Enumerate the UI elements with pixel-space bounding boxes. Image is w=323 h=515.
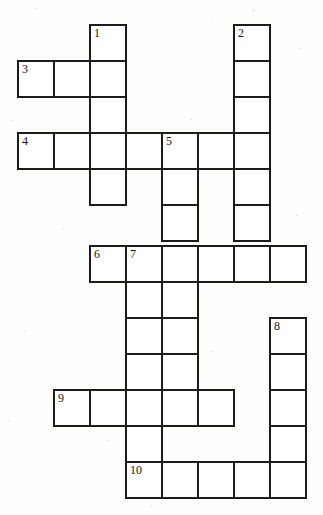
crossword-cell-6[interactable]: 6 [89,245,127,283]
crossword-cell-3[interactable]: 3 [17,60,55,98]
crossword-cell[interactable] [89,168,127,206]
crossword-cell[interactable] [269,245,307,283]
cell-number-1: 1 [94,26,100,40]
crossword-cell-5[interactable]: 5 [161,132,199,170]
cell-number-2: 2 [238,26,244,40]
cell-number-3: 3 [22,62,28,76]
crossword-cell[interactable] [233,245,271,283]
crossword-cell[interactable] [161,281,199,319]
cell-number-6: 6 [94,247,100,261]
crossword-cell[interactable] [161,168,199,206]
crossword-cell[interactable] [89,389,127,427]
crossword-cell[interactable] [53,132,91,170]
crossword-cell[interactable] [125,281,163,319]
crossword-cell-4[interactable]: 4 [17,132,55,170]
crossword-cell-1[interactable]: 1 [89,24,127,62]
crossword-cell[interactable] [161,389,199,427]
crossword-cell[interactable] [161,245,199,283]
crossword-cell[interactable] [269,461,307,499]
crossword-cell[interactable] [125,353,163,391]
crossword-cell[interactable] [161,317,199,355]
crossword-cell[interactable] [125,132,163,170]
crossword-cell-10[interactable]: 10 [125,461,163,499]
crossword-cell[interactable] [197,132,235,170]
crossword-cell[interactable] [53,60,91,98]
crossword-cell[interactable] [89,96,127,134]
crossword-puzzle: 12345678910 [0,0,323,515]
crossword-cell[interactable] [89,60,127,98]
crossword-cell[interactable] [161,204,199,242]
crossword-cell[interactable] [233,461,271,499]
cell-number-4: 4 [22,134,28,148]
crossword-grid: 12345678910 [0,0,323,515]
crossword-cell[interactable] [125,425,163,463]
crossword-cell[interactable] [269,389,307,427]
crossword-cell-9[interactable]: 9 [53,389,91,427]
crossword-cell-2[interactable]: 2 [233,24,271,62]
crossword-cell[interactable] [197,389,235,427]
crossword-cell[interactable] [233,168,271,206]
crossword-cell[interactable] [125,317,163,355]
crossword-cell[interactable] [89,132,127,170]
crossword-cell[interactable] [233,60,271,98]
cell-number-5: 5 [166,134,172,148]
crossword-cell[interactable] [269,353,307,391]
cell-number-10: 10 [130,463,142,477]
cell-number-8: 8 [274,319,280,333]
cell-number-7: 7 [130,247,136,261]
crossword-cell[interactable] [161,353,199,391]
crossword-cell[interactable] [233,204,271,242]
crossword-cell[interactable] [269,425,307,463]
crossword-cell[interactable] [125,389,163,427]
crossword-cell[interactable] [197,245,235,283]
crossword-cell-7[interactable]: 7 [125,245,163,283]
cell-number-9: 9 [58,391,64,405]
crossword-cell-8[interactable]: 8 [269,317,307,355]
crossword-cell[interactable] [161,461,199,499]
crossword-cell[interactable] [233,96,271,134]
crossword-cell[interactable] [197,461,235,499]
crossword-cell[interactable] [233,132,271,170]
